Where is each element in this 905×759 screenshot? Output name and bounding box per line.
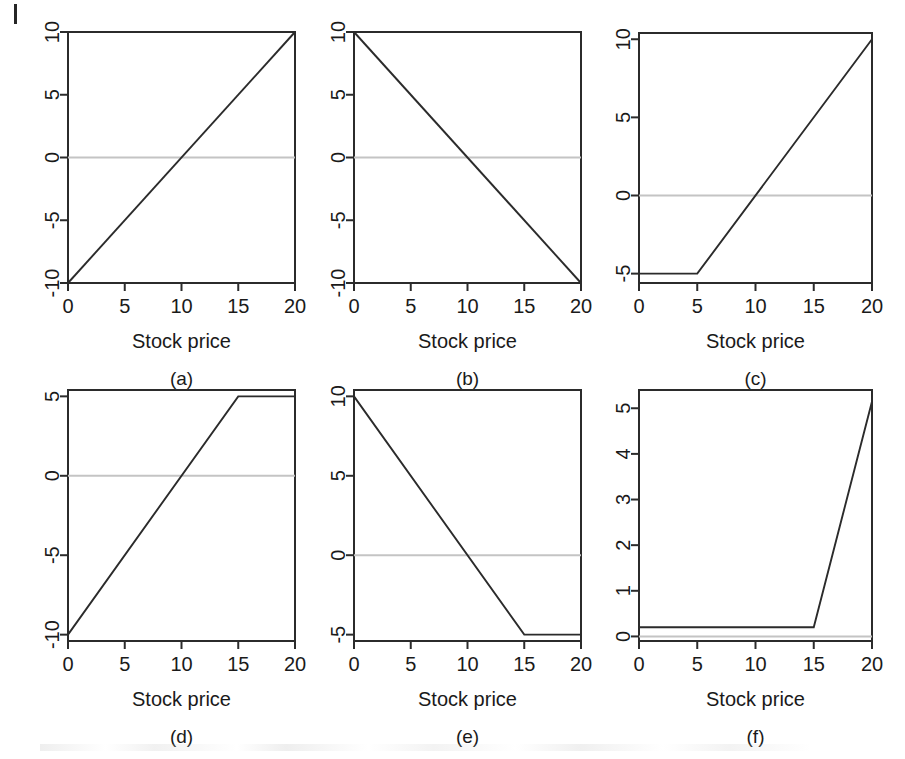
x-tick-label: 10 bbox=[456, 653, 478, 675]
panel-label: (b) bbox=[456, 368, 479, 389]
y-tick-label: -5 bbox=[41, 211, 63, 229]
x-axis-title: Stock price bbox=[418, 688, 517, 710]
y-tick-label: -5 bbox=[327, 211, 349, 229]
x-tick-label: 20 bbox=[570, 653, 592, 675]
x-tick-label: 10 bbox=[170, 653, 192, 675]
y-tick-label: 0 bbox=[327, 550, 349, 561]
y-tick-label: -5 bbox=[327, 626, 349, 644]
x-tick-label: 0 bbox=[633, 653, 644, 675]
payoff-line bbox=[639, 39, 872, 273]
plot-box bbox=[68, 390, 295, 641]
x-tick-label: 15 bbox=[513, 653, 535, 675]
panel-a: 05101520-10-50510Stock price(a) bbox=[41, 21, 306, 389]
x-tick-label: 5 bbox=[405, 653, 416, 675]
payoff-line bbox=[354, 396, 581, 634]
x-tick-label: 0 bbox=[348, 653, 359, 675]
y-tick-label: 5 bbox=[327, 89, 349, 100]
x-tick-label: 5 bbox=[405, 295, 416, 317]
plot-box bbox=[639, 33, 872, 283]
x-tick-label: 15 bbox=[227, 295, 249, 317]
y-tick-label: 0 bbox=[41, 470, 63, 481]
x-tick-label: 20 bbox=[570, 295, 592, 317]
x-tick-label: 20 bbox=[861, 295, 883, 317]
payoff-diagram-figure: 05101520-10-50510Stock price(a)05101520-… bbox=[0, 0, 905, 759]
y-tick-label: 5 bbox=[41, 391, 63, 402]
x-tick-label: 5 bbox=[119, 295, 130, 317]
x-tick-label: 10 bbox=[744, 295, 766, 317]
payoff-line bbox=[68, 396, 295, 634]
y-tick-label: 10 bbox=[612, 28, 634, 50]
y-tick-label: 1 bbox=[612, 585, 634, 596]
x-tick-label: 0 bbox=[633, 295, 644, 317]
plot-box bbox=[354, 390, 581, 641]
x-tick-label: 5 bbox=[119, 653, 130, 675]
y-tick-label: -10 bbox=[327, 269, 349, 298]
y-tick-label: -10 bbox=[41, 269, 63, 298]
plot-box bbox=[639, 390, 872, 641]
y-tick-label: -10 bbox=[41, 620, 63, 649]
y-tick-label: 10 bbox=[41, 21, 63, 43]
y-tick-label: 0 bbox=[612, 190, 634, 201]
panel-f: 05101520012345Stock price(f) bbox=[612, 390, 883, 747]
y-tick-label: 10 bbox=[327, 385, 349, 407]
y-tick-label: 0 bbox=[41, 152, 63, 163]
y-tick-label: 5 bbox=[612, 112, 634, 123]
panel-c: 05101520-50510Stock price(c) bbox=[612, 28, 883, 389]
y-tick-label: 5 bbox=[327, 470, 349, 481]
y-tick-label: 4 bbox=[612, 448, 634, 459]
x-tick-label: 15 bbox=[803, 295, 825, 317]
x-axis-title: Stock price bbox=[418, 330, 517, 352]
y-tick-label: 3 bbox=[612, 494, 634, 505]
panel-e: 05101520-50510Stock price(e) bbox=[327, 385, 592, 747]
y-tick-label: 5 bbox=[41, 89, 63, 100]
panel-label: (a) bbox=[170, 368, 193, 389]
y-tick-label: -5 bbox=[41, 546, 63, 564]
panel-d: 05101520-10-505Stock price(d) bbox=[41, 390, 306, 747]
y-tick-label: 10 bbox=[327, 21, 349, 43]
y-tick-label: 0 bbox=[327, 152, 349, 163]
x-tick-label: 0 bbox=[62, 653, 73, 675]
x-axis-title: Stock price bbox=[706, 330, 805, 352]
x-axis-title: Stock price bbox=[132, 330, 231, 352]
panel-label: (c) bbox=[744, 368, 766, 389]
x-tick-label: 10 bbox=[170, 295, 192, 317]
y-tick-label: 2 bbox=[612, 540, 634, 551]
panel-b: 05101520-10-50510Stock price(b) bbox=[327, 21, 592, 389]
x-tick-label: 10 bbox=[456, 295, 478, 317]
x-tick-label: 20 bbox=[861, 653, 883, 675]
x-tick-label: 15 bbox=[227, 653, 249, 675]
x-tick-label: 5 bbox=[692, 653, 703, 675]
x-tick-label: 0 bbox=[348, 295, 359, 317]
payoff-line bbox=[639, 401, 872, 627]
y-tick-label: 0 bbox=[612, 631, 634, 642]
x-tick-label: 10 bbox=[744, 653, 766, 675]
y-tick-label: 5 bbox=[612, 403, 634, 414]
x-axis-title: Stock price bbox=[706, 688, 805, 710]
y-tick-label: -5 bbox=[612, 265, 634, 283]
x-tick-label: 0 bbox=[62, 295, 73, 317]
x-axis-title: Stock price bbox=[132, 688, 231, 710]
x-tick-label: 5 bbox=[692, 295, 703, 317]
x-tick-label: 15 bbox=[803, 653, 825, 675]
x-tick-label: 20 bbox=[284, 653, 306, 675]
x-tick-label: 15 bbox=[513, 295, 535, 317]
cropped-caption-ghost bbox=[40, 744, 860, 751]
x-tick-label: 20 bbox=[284, 295, 306, 317]
